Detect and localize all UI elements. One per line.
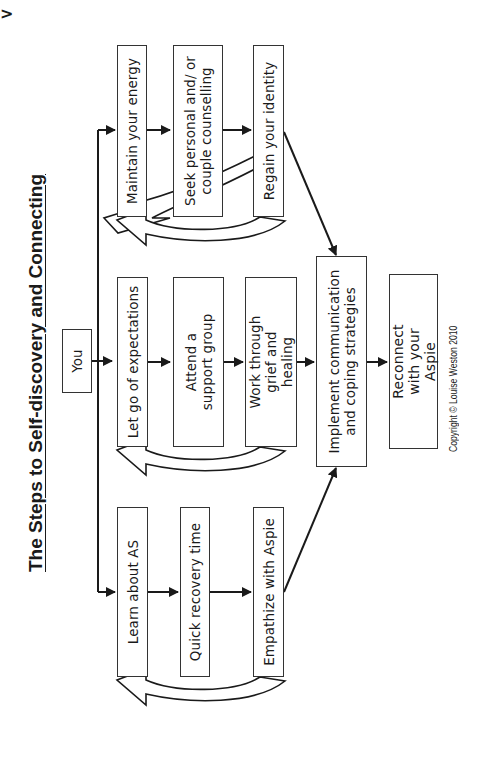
step-let-go-expectations: Let go of expectations [117,277,148,447]
step-learn-about-as: Learn about AS [117,507,148,677]
final-node-reconnect: Reconnect with your Aspie [389,274,438,449]
step-maintain-energy: Maintain your energy [117,45,147,217]
step-attend-support-group: Attend a support group [173,277,224,447]
merge-node-implement: Implement communication and coping strat… [316,256,367,467]
diagram-canvas: The Steps to Self-discovery and Connecti… [0,0,480,781]
step-work-through-grief: Work through grief and healing [245,277,297,447]
step-quick-recovery: Quick recovery time [180,507,210,677]
step-seek-counselling: Seek personal and/ or couple counselling [173,45,223,217]
step-empathize-aspie: Empathize with Aspie [253,507,284,677]
copyright-notice: Copyright © Louise Weston 2010 [447,326,459,452]
start-node-you: You [62,329,92,393]
diagram-title: The Steps to Self-discovery and Connecti… [25,174,47,572]
step-regain-identity: Regain your identity [253,45,284,217]
